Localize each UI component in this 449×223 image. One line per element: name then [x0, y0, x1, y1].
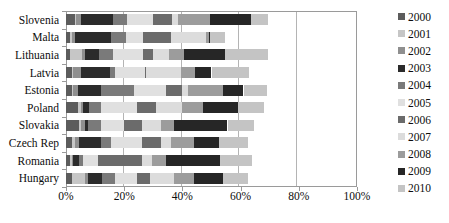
- x-axis-tick: [357, 187, 358, 191]
- legend-swatch-icon: [398, 47, 405, 54]
- legend-swatch-icon: [398, 185, 405, 192]
- bar-segment: [89, 102, 101, 113]
- bar-segment: [210, 14, 251, 25]
- y-axis-tick: [62, 46, 66, 47]
- legend-label: 2009: [408, 165, 431, 177]
- x-axis-tick-label: 40%: [172, 190, 193, 202]
- bar-segment: [210, 32, 225, 43]
- x-axis-tick: [124, 187, 125, 191]
- y-axis-tick: [62, 169, 66, 170]
- bar-row: [66, 64, 357, 82]
- bar-track: [66, 67, 357, 78]
- bar-segment: [70, 49, 82, 60]
- bar-segment: [143, 32, 171, 43]
- legend-label: 2003: [408, 62, 431, 74]
- legend-swatch-icon: [398, 168, 405, 175]
- bar-segment: [212, 67, 250, 78]
- legend-item[interactable]: 2001: [398, 25, 449, 42]
- legend-label: 2001: [408, 28, 431, 40]
- bar-row: [66, 81, 357, 99]
- y-axis-tick-label: Czech Rep: [0, 137, 59, 149]
- legend-item[interactable]: 2003: [398, 60, 449, 77]
- bar-row: [66, 117, 357, 135]
- bar-segment: [223, 85, 243, 96]
- bar-segment: [166, 85, 182, 96]
- bar-segment: [244, 85, 267, 96]
- bar-segment: [101, 120, 124, 131]
- x-axis-tick-label: 80%: [288, 190, 309, 202]
- x-axis-tick: [182, 187, 183, 191]
- x-axis-labels: 0%20%40%60%80%100%: [0, 190, 449, 206]
- x-axis-tick: [66, 187, 67, 191]
- bar-segment: [137, 173, 150, 184]
- bar-track: [66, 49, 357, 60]
- legend-item[interactable]: 2006: [398, 111, 449, 128]
- bar-segment: [146, 67, 181, 78]
- bar-row: [66, 11, 357, 29]
- legend-swatch-icon: [398, 116, 405, 123]
- legend: 2000200120022003200420052006200720082009…: [398, 8, 449, 197]
- x-axis-tick-label: 60%: [230, 190, 251, 202]
- bar-segment: [113, 49, 144, 60]
- legend-swatch-icon: [398, 65, 405, 72]
- bar-segment: [161, 120, 174, 131]
- bar-segment: [81, 67, 110, 78]
- x-axis-tick: [299, 187, 300, 191]
- bar-segment: [124, 120, 141, 131]
- bar-segment: [115, 173, 137, 184]
- bar-segment: [81, 14, 113, 25]
- legend-item[interactable]: 2004: [398, 77, 449, 94]
- legend-label: 2008: [408, 148, 431, 160]
- bar-segment: [79, 137, 101, 148]
- bar-segment: [134, 85, 166, 96]
- y-axis-tick-label: Romania: [0, 155, 59, 167]
- x-axis-tick: [241, 187, 242, 191]
- legend-item[interactable]: 2002: [398, 42, 449, 59]
- legend-swatch-icon: [398, 99, 405, 106]
- bar-segment: [181, 67, 196, 78]
- bar-segment: [142, 120, 161, 131]
- bar-segment: [171, 137, 194, 148]
- bar-track: [66, 102, 357, 113]
- bar-segment: [142, 137, 161, 148]
- bar-segment: [203, 102, 238, 113]
- legend-swatch-icon: [398, 13, 405, 20]
- y-axis-tick-label: Hungary: [0, 172, 59, 184]
- legend-item[interactable]: 2008: [398, 146, 449, 163]
- bar-segment: [142, 155, 152, 166]
- bar-segment: [153, 49, 169, 60]
- bar-segment: [143, 49, 153, 60]
- legend-swatch-icon: [398, 133, 405, 140]
- bar-track: [66, 120, 357, 131]
- legend-item[interactable]: 2005: [398, 94, 449, 111]
- legend-item[interactable]: 2010: [398, 180, 449, 197]
- legend-item[interactable]: 2007: [398, 128, 449, 145]
- legend-item[interactable]: 2000: [398, 8, 449, 25]
- bar-row: [66, 29, 357, 47]
- y-axis-tick: [62, 81, 66, 82]
- bar-segment: [166, 155, 220, 166]
- legend-label: 2004: [408, 79, 431, 91]
- y-axis-tick: [62, 64, 66, 65]
- y-axis-tick-label: Poland: [0, 102, 59, 114]
- bar-row: [66, 134, 357, 152]
- bar-segment: [75, 32, 111, 43]
- legend-label: 2007: [408, 131, 431, 143]
- bar-segment: [194, 173, 223, 184]
- legend-item[interactable]: 2009: [398, 163, 449, 180]
- y-axis-tick-label: Malta: [0, 31, 59, 43]
- x-axis-tick-label: 100%: [344, 190, 371, 202]
- y-axis-tick-label: Slovakia: [0, 119, 59, 131]
- bar-segment: [88, 120, 101, 131]
- bar-segment: [152, 155, 167, 166]
- bar-segment: [251, 14, 268, 25]
- bar-row: [66, 152, 357, 170]
- bar-segment: [113, 14, 128, 25]
- bar-segment: [85, 49, 100, 60]
- bar-segment: [195, 67, 211, 78]
- bar-segment: [161, 137, 171, 148]
- bar-track: [66, 14, 357, 25]
- bar-segment: [127, 14, 153, 25]
- bar-segment: [194, 137, 219, 148]
- y-axis-tick: [62, 11, 66, 12]
